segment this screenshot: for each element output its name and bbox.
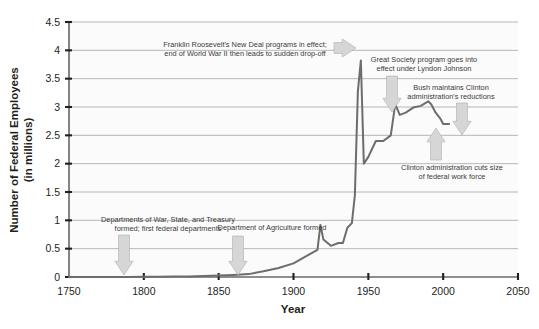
annotation-text-line: formed; first federal departments [115,224,222,233]
y-axis-title: Number of Federal Employees (in millions… [8,67,34,233]
y-tick-labels: 00.511.522.533.544.5 [45,16,60,283]
y-tick-label: 0.5 [45,242,60,254]
y-tick-label: 1.5 [45,186,60,198]
y-axis-title-line-1: Number of Federal Employees [8,67,20,233]
x-tick-label: 1850 [207,285,231,297]
annotation-text-line: end of World War II then leads to sudden… [164,49,326,58]
annotation-text-line: of federal work force [419,172,486,181]
annotation-text-line: Bush maintains Clinton [413,83,489,92]
x-axis-title: Year [281,303,306,315]
x-tick-label: 2050 [506,285,530,297]
annotation-text-line: Departments of War, State, and Treasury [101,215,235,224]
y-tick-label: 0 [54,271,60,283]
x-tick-label: 1950 [357,285,381,297]
y-tick-label: 3 [54,101,60,113]
x-tick-labels: 1750180018501900195020002050 [57,285,530,297]
x-tick-label: 1750 [57,285,81,297]
y-tick-label: 4 [54,44,60,56]
y-tick-label: 4.5 [45,16,60,28]
x-tick-label: 2000 [431,285,455,297]
chart-container: 00.511.522.533.544.5 1750180018501900195… [0,0,539,329]
annotation-text-line: administration's reductions [407,92,495,101]
x-tick-label: 1800 [132,285,156,297]
x-tick-label: 1900 [282,285,306,297]
annotation-text-line: Franklin Roosevelt's New Deal programs i… [163,40,327,49]
y-tick-label: 3.5 [45,72,60,84]
annotation-text-line: Department of Agriculture formed [218,223,327,232]
y-axis-title-line-2: (in millions) [22,118,34,183]
annotation-text-line: effect under Lyndon Johnson [377,64,472,73]
annotation-text-line: Clinton administration cuts size [401,163,503,172]
y-tick-label: 1 [54,214,60,226]
y-tick-label: 2 [54,157,60,169]
y-tick-label: 2.5 [45,129,60,141]
annotation-text-line: Great Society program goes into [371,55,477,64]
federal-employees-line-chart: 00.511.522.533.544.5 1750180018501900195… [0,0,539,329]
